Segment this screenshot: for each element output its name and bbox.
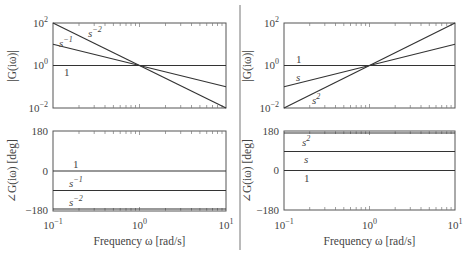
left-phase-label-1: 1 [73, 158, 79, 170]
left-mag-ytick-top: 102 [33, 15, 48, 29]
left-phase-ylabel: ∠G(iω) [deg] [6, 139, 19, 203]
right-xtick-3: 101 [448, 217, 463, 231]
left-phase-ytick-m180: −180 [25, 204, 48, 216]
right-phase-plot: s2 s 1 180 0 −180 ∠G(iω) [deg] 10−1 100 … [241, 125, 463, 248]
right-phase-label-s2: s2 [302, 134, 310, 148]
right-mag-ytick-top: 102 [264, 15, 279, 29]
right-xtick-2: 100 [362, 217, 377, 231]
left-mag-ylabel: |G(iω)| [6, 50, 19, 81]
right-magnitude-plot: 1 s s2 102 100 10−2 |G(iω)| [241, 15, 455, 114]
left-xtick-3: 101 [219, 217, 234, 231]
right-xlabel: Frequency ω [rad/s] [324, 235, 416, 248]
left-phase-plot: 1 s−1 s−2 180 0 −180 ∠G(iω) [deg] 10−1 1… [6, 125, 234, 248]
left-magnitude-plot: 1 s−1 s−2 102 100 10−2 |G(iω)| [6, 15, 226, 114]
left-mag-label-1: 1 [64, 66, 70, 78]
right-xtick-1: 10−1 [274, 217, 294, 231]
left-phase-label-s-inv: s−1 [69, 175, 83, 189]
left-phase-label-s-inv2: s−2 [69, 194, 83, 208]
right-mag-label-s2: s2 [312, 92, 320, 106]
right-phase-label-1: 1 [304, 172, 310, 184]
right-mag-ytick-mid: 100 [264, 57, 279, 71]
left-xtick-2: 100 [132, 217, 147, 231]
left-phase-ytick-180: 180 [32, 125, 49, 137]
right-mag-ylabel: |G(iω)| [241, 50, 254, 81]
left-phase-ytick-0: 0 [43, 165, 49, 177]
left-mag-ytick-bottom: 10−2 [28, 100, 48, 114]
right-phase-ytick-m180: −180 [256, 204, 279, 216]
right-mag-ytick-bottom: 10−2 [259, 100, 279, 114]
bode-figure: 1 s−1 s−2 102 100 10−2 |G(iω)| 1 s−1 [0, 0, 473, 256]
left-mag-label-s-inv2: s−2 [88, 25, 102, 39]
right-phase-ytick-180: 180 [263, 125, 280, 137]
left-xtick-1: 10−1 [43, 217, 63, 231]
right-mag-label-s: s [296, 71, 300, 83]
right-phase-label-s: s [304, 153, 308, 165]
left-panel: 1 s−1 s−2 102 100 10−2 |G(iω)| 1 s−1 [6, 15, 234, 248]
right-mag-label-1: 1 [296, 53, 302, 65]
right-phase-ylabel: ∠G(iω) [deg] [241, 139, 254, 203]
right-phase-ytick-0: 0 [274, 164, 280, 176]
left-mag-ytick-mid: 100 [33, 57, 48, 71]
left-xlabel: Frequency ω [rad/s] [94, 235, 186, 248]
right-panel: 1 s s2 102 100 10−2 |G(iω)| s2 s 1 180 0 [241, 15, 463, 248]
